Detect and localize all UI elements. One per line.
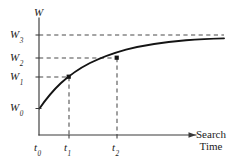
y-tick-label-w2-sub: 2 — [20, 60, 24, 68]
y-tick-label-w0-text: W — [10, 101, 19, 113]
x-tick-label-t1-sub: 1 — [68, 150, 72, 158]
data-point-2 — [115, 56, 119, 60]
y-tick-label-w3-sub: 3 — [20, 37, 24, 45]
y-tick-label-w1-text: W — [10, 70, 19, 82]
x-tick-label-t0: t0 — [34, 142, 41, 153]
data-point-1 — [67, 75, 71, 79]
y-tick-label-w1: W1 — [10, 71, 23, 82]
search-time-wage-chart: W W3 W2 W1 W0 t0 t1 t2 Search Time — [0, 0, 232, 164]
y-tick-label-w3-text: W — [10, 28, 19, 40]
y-tick-label-w2: W2 — [10, 52, 23, 63]
y-tick-label-w2-text: W — [10, 51, 19, 63]
x-tick-label-t2-sub: 2 — [116, 150, 120, 158]
y-tick-label-w1-sub: 1 — [20, 79, 24, 87]
wage-offer-curve — [40, 38, 225, 108]
y-tick-label-w0-sub: 0 — [20, 110, 24, 118]
y-tick-label-w3: W3 — [10, 29, 23, 40]
x-tick-label-t2-text: t — [112, 141, 115, 153]
y-tick-label-w0: W0 — [10, 102, 23, 113]
x-axis-caption-line1: Search — [196, 129, 226, 141]
x-axis-arrowhead — [189, 132, 197, 137]
x-tick-label-t1: t1 — [64, 142, 71, 153]
y-axis-label: W — [34, 7, 43, 18]
x-tick-label-t1-text: t — [64, 141, 67, 153]
x-tick-label-t2: t2 — [112, 142, 119, 153]
x-axis-caption: Search Time — [196, 129, 226, 152]
x-tick-label-t0-text: t — [34, 141, 37, 153]
x-axis-caption-line2: Time — [196, 141, 226, 153]
x-tick-label-t0-sub: 0 — [38, 150, 42, 158]
